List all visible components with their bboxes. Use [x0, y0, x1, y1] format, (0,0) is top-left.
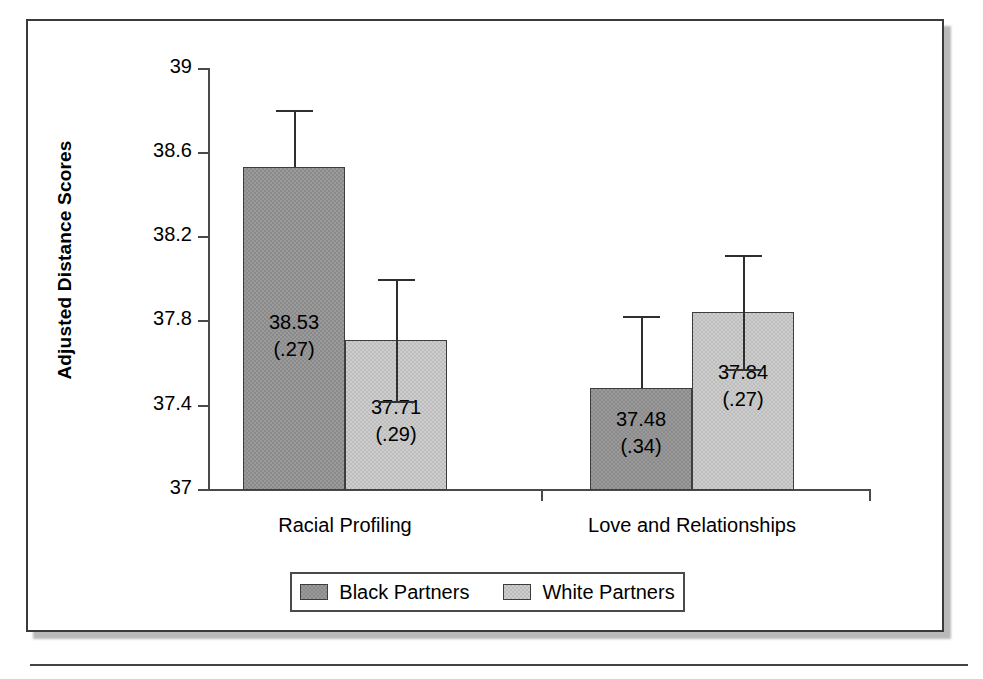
legend-item-white-partners: White Partners — [503, 581, 674, 604]
error-bar-stem — [396, 279, 398, 401]
legend-item-black-partners: Black Partners — [300, 581, 469, 604]
legend-label-black-partners: Black Partners — [339, 581, 469, 604]
chart-plot-area: Adjusted Distance Scores 39 38.6 38.2 37… — [28, 21, 946, 634]
error-bar-cap-upper — [378, 279, 415, 281]
bar-value-error: (.34) — [620, 435, 661, 457]
y-tick-label: 38.2 — [153, 223, 192, 246]
y-tick-mark — [198, 152, 209, 154]
bar-value-error: (.29) — [375, 423, 416, 445]
legend-swatch-white-partners — [503, 584, 531, 600]
bar-value-error: (.27) — [722, 388, 763, 410]
y-tick-label: 37 — [170, 476, 192, 499]
y-axis-line — [208, 68, 210, 490]
y-axis-title: Adjusted Distance Scores — [54, 135, 76, 385]
bar-value-error: (.27) — [273, 338, 314, 360]
y-tick-label: 37.8 — [153, 307, 192, 330]
error-bar-stem — [641, 316, 643, 388]
y-tick-label: 39 — [170, 55, 192, 78]
error-bar-cap-upper — [276, 110, 313, 112]
legend-swatch-black-partners — [300, 584, 328, 600]
bar-value-label: 37.48 (.34) — [590, 406, 692, 460]
bar-value-mean: 37.48 — [616, 408, 666, 430]
y-tick-mark — [198, 236, 209, 238]
error-bar-cap-upper — [623, 316, 660, 318]
chart-legend: Black Partners White Partners — [290, 572, 685, 612]
error-bar-stem — [294, 110, 296, 167]
x-axis-end-tick — [869, 489, 871, 501]
legend-label-white-partners: White Partners — [542, 581, 674, 604]
y-tick-label: 37.4 — [153, 392, 192, 415]
bar-value-label: 38.53 (.27) — [243, 309, 345, 363]
error-bar-cap-lower — [378, 401, 415, 403]
category-label-racial-profiling: Racial Profiling — [245, 514, 445, 537]
y-tick-mark — [198, 405, 209, 407]
error-bar-cap-upper — [725, 255, 762, 257]
figure-frame: Adjusted Distance Scores 39 38.6 38.2 37… — [26, 19, 944, 632]
category-label-love-and-relationships: Love and Relationships — [567, 514, 817, 537]
error-bar-stem — [743, 255, 745, 369]
error-bar-cap-lower — [725, 369, 762, 371]
x-axis-group-separator-tick — [541, 489, 543, 501]
y-tick-mark — [198, 320, 209, 322]
y-tick-mark — [198, 68, 209, 70]
page-bottom-rule — [30, 664, 968, 666]
y-tick-mark — [198, 489, 209, 491]
bar-value-mean: 38.53 — [269, 311, 319, 333]
y-tick-label: 38.6 — [153, 139, 192, 162]
